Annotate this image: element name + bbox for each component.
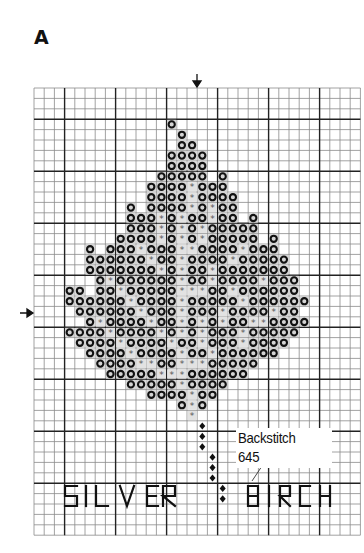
letter-c xyxy=(300,486,310,506)
backstitch-diamond-icon xyxy=(199,443,205,450)
asterisk-stitch: * xyxy=(200,234,205,244)
asterisk-stitch: * xyxy=(271,307,276,317)
asterisk-stitch: * xyxy=(180,266,185,276)
callout-leader-line xyxy=(252,466,262,481)
top-center-arrow-icon xyxy=(193,74,201,87)
asterisk-stitch: * xyxy=(220,318,225,328)
asterisk-stitch: * xyxy=(180,255,185,265)
asterisk-stitch: * xyxy=(180,328,185,338)
asterisk-stitch: * xyxy=(149,255,154,265)
letter-h xyxy=(320,486,330,506)
asterisk-stitch: * xyxy=(200,286,205,296)
asterisk-stitch: * xyxy=(180,234,185,244)
asterisk-stitch: * xyxy=(210,214,215,224)
asterisk-stitch: * xyxy=(220,307,225,317)
asterisk-stitch: * xyxy=(159,370,164,380)
callout-title: Backstitch xyxy=(238,429,296,446)
left-center-arrow-icon xyxy=(20,309,33,317)
backstitch-callout: Backstitch 645 xyxy=(236,428,332,468)
asterisk-stitch: * xyxy=(118,286,123,296)
asterisk-stitch: * xyxy=(169,370,174,380)
asterisk-stitch: * xyxy=(190,359,195,369)
asterisk-stitch: * xyxy=(210,276,215,286)
asterisk-stitch: * xyxy=(139,359,144,369)
asterisk-stitch: * xyxy=(139,307,144,317)
asterisk-stitch: * xyxy=(190,411,195,421)
asterisk-stitch: * xyxy=(200,224,205,234)
backstitch-diamond-icon xyxy=(220,495,226,502)
cross-stitch-chart: ****************************************… xyxy=(0,0,364,553)
asterisk-stitch: * xyxy=(190,182,195,192)
asterisk-stitch: * xyxy=(190,193,195,203)
backstitch-diamond-icon xyxy=(199,422,205,429)
asterisk-stitch: * xyxy=(129,297,134,307)
asterisk-stitch: * xyxy=(231,286,236,296)
asterisk-stitch: * xyxy=(210,266,215,276)
asterisk-stitch: * xyxy=(190,245,195,255)
asterisk-stitch: * xyxy=(200,338,205,348)
asterisk-stitch: * xyxy=(108,328,113,338)
asterisk-stitch: * xyxy=(241,297,246,307)
asterisk-stitch: * xyxy=(180,380,185,390)
asterisk-stitch: * xyxy=(241,338,246,348)
asterisk-stitch: * xyxy=(190,286,195,296)
asterisk-stitch: * xyxy=(159,266,164,276)
asterisk-stitch: * xyxy=(149,318,154,328)
asterisk-stitch: * xyxy=(180,297,185,307)
asterisk-stitch: * xyxy=(159,234,164,244)
asterisk-stitch: * xyxy=(210,203,215,213)
asterisk-stitch: * xyxy=(200,318,205,328)
asterisk-stitch: * xyxy=(108,276,113,286)
letter-v xyxy=(120,486,134,506)
asterisk-stitch: * xyxy=(139,245,144,255)
asterisk-stitch: * xyxy=(180,359,185,369)
asterisk-stitch: * xyxy=(180,349,185,359)
asterisk-stitch: * xyxy=(98,318,103,328)
backstitch-diamond-icon xyxy=(220,485,226,492)
asterisk-stitch: * xyxy=(200,328,205,338)
asterisk-stitch: * xyxy=(190,401,195,411)
asterisk-stitch: * xyxy=(210,349,215,359)
backstitch-diamond-icon xyxy=(199,433,205,440)
asterisk-stitch: * xyxy=(169,338,174,348)
asterisk-stitch: * xyxy=(149,359,154,369)
asterisk-stitch: * xyxy=(190,390,195,400)
asterisk-stitch: * xyxy=(241,328,246,338)
asterisk-stitch: * xyxy=(231,255,236,265)
asterisk-stitch: * xyxy=(180,245,185,255)
asterisk-stitch: * xyxy=(180,224,185,234)
asterisk-stitch: * xyxy=(118,338,123,348)
letter-b xyxy=(248,486,258,506)
backstitch-diamond-icon xyxy=(210,454,216,461)
asterisk-stitch: * xyxy=(129,349,134,359)
asterisk-stitch: * xyxy=(159,224,164,234)
asterisk-stitch: * xyxy=(180,276,185,286)
backstitch-diamond-icon xyxy=(210,474,216,481)
backstitch-diamond-icon xyxy=(210,464,216,471)
asterisk-stitch: * xyxy=(180,307,185,317)
letter-l xyxy=(96,486,108,506)
asterisk-stitch: * xyxy=(159,328,164,338)
callout-color-code: 645 xyxy=(238,448,259,465)
asterisk-stitch: * xyxy=(180,286,185,296)
asterisk-stitch: * xyxy=(180,370,185,380)
asterisk-stitch: * xyxy=(241,245,246,255)
letter-r xyxy=(163,486,175,506)
asterisk-stitch: * xyxy=(200,359,205,369)
asterisk-stitch: * xyxy=(180,214,185,224)
asterisk-stitch: * xyxy=(190,203,195,213)
asterisk-stitch: * xyxy=(261,318,266,328)
asterisk-stitch: * xyxy=(180,318,185,328)
letter-r-2 xyxy=(280,486,290,506)
asterisk-stitch: * xyxy=(251,318,256,328)
asterisk-stitch: * xyxy=(261,276,266,286)
asterisk-stitch: * xyxy=(159,214,164,224)
